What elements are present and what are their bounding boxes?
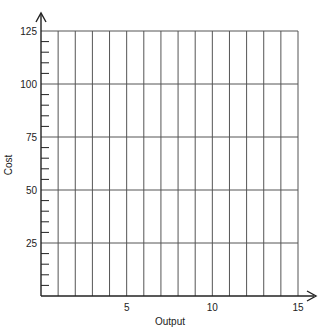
x-tick-label: 5 bbox=[124, 302, 130, 313]
y-tick-label: 100 bbox=[20, 79, 37, 90]
cost-output-chart: 255075100125 51015 Output Cost bbox=[0, 0, 328, 334]
grid-lines bbox=[41, 31, 298, 296]
y-axis-label: Cost bbox=[3, 154, 14, 175]
x-tick-label: 15 bbox=[292, 302, 304, 313]
y-tick-label: 75 bbox=[26, 132, 38, 143]
x-tick-labels: 51015 bbox=[124, 302, 304, 313]
y-tick-label: 50 bbox=[26, 185, 38, 196]
x-axis-label: Output bbox=[155, 316, 185, 327]
y-tick-label: 125 bbox=[20, 26, 37, 37]
y-minor-ticks bbox=[41, 42, 49, 286]
y-tick-labels: 255075100125 bbox=[20, 26, 37, 249]
y-tick-label: 25 bbox=[26, 238, 38, 249]
x-tick-label: 10 bbox=[207, 302, 219, 313]
axes bbox=[36, 13, 316, 301]
